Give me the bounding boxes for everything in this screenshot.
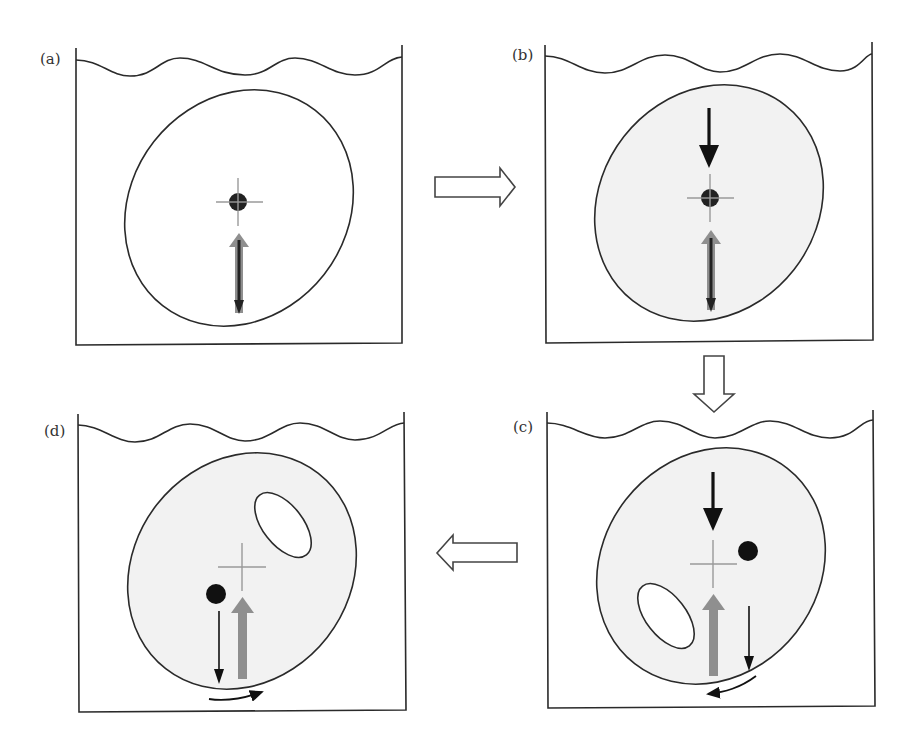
panel-b: (b) <box>512 39 873 367</box>
mass-dot <box>738 541 758 561</box>
water-surface <box>76 57 402 76</box>
panel-label-c: (c) <box>513 418 533 436</box>
panel-a: (a) <box>40 44 402 372</box>
mass-dot <box>206 584 226 604</box>
water-surface <box>545 54 872 73</box>
figure-canvas: (a) (b) <box>0 0 912 746</box>
panel-label-d: (d) <box>44 422 65 440</box>
panel-d: (d) <box>44 407 406 735</box>
panel-label-a: (a) <box>40 50 61 68</box>
floating-body <box>550 402 873 730</box>
water-surface <box>547 420 873 438</box>
panel-c: (c) <box>513 402 875 730</box>
rotation-arrow-clockwise <box>209 692 262 700</box>
water-surface <box>78 423 404 442</box>
transition-arrow-down <box>694 356 734 412</box>
transition-arrow-right <box>435 168 515 206</box>
panel-label-b: (b) <box>512 46 533 64</box>
transition-arrow-left <box>437 535 517 570</box>
